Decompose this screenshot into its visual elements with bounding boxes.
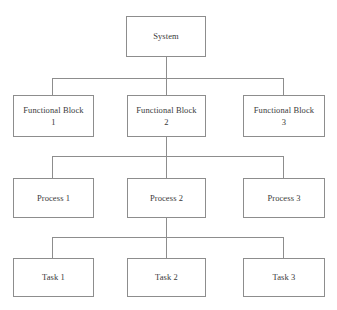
bus-line-level2-to-level3 — [52, 156, 283, 157]
node-task-1[interactable]: Task 1 — [13, 258, 94, 297]
node-functional-block-1[interactable]: Functional Block 1 — [13, 95, 94, 137]
node-process-3-label: Process 3 — [265, 192, 302, 204]
connector-bus2-to-process-3 — [283, 156, 284, 178]
node-functional-block-2[interactable]: Functional Block 2 — [127, 95, 206, 137]
connector-bus2-to-process-2 — [166, 156, 167, 178]
node-system[interactable]: System — [126, 16, 206, 57]
node-functional-block-3[interactable]: Functional Block 3 — [243, 95, 325, 137]
connector-system-to-bus1 — [166, 57, 167, 78]
node-task-2[interactable]: Task 2 — [127, 258, 206, 297]
node-task-1-label: Task 1 — [40, 271, 67, 283]
connector-bus3-to-task-1 — [52, 237, 53, 258]
bus-line-level1-to-level2 — [52, 78, 283, 79]
connector-bus1-to-functional-block-1 — [52, 78, 53, 95]
node-task-3[interactable]: Task 3 — [243, 258, 325, 297]
node-process-3[interactable]: Process 3 — [243, 178, 325, 218]
node-system-label: System — [151, 30, 181, 42]
system-hierarchy-diagram: System Functional Block 1 Functional Blo… — [0, 0, 337, 310]
connector-bus2-to-process-1 — [52, 156, 53, 178]
node-functional-block-3-label: Functional Block 3 — [252, 104, 316, 129]
node-process-2[interactable]: Process 2 — [127, 178, 206, 218]
connector-functional-block-2-to-bus2 — [166, 137, 167, 156]
node-functional-block-2-label: Functional Block 2 — [134, 104, 198, 129]
connector-bus1-to-functional-block-2 — [166, 78, 167, 95]
connector-process-2-to-bus3 — [166, 218, 167, 237]
node-functional-block-1-label: Functional Block 1 — [21, 104, 85, 129]
node-process-1[interactable]: Process 1 — [13, 178, 94, 218]
connector-bus3-to-task-3 — [283, 237, 284, 258]
node-task-2-label: Task 2 — [153, 271, 180, 283]
connector-bus3-to-task-2 — [166, 237, 167, 258]
node-process-2-label: Process 2 — [148, 192, 185, 204]
node-task-3-label: Task 3 — [271, 271, 298, 283]
node-process-1-label: Process 1 — [35, 192, 72, 204]
bus-line-level3-to-level4 — [52, 237, 283, 238]
connector-bus1-to-functional-block-3 — [283, 78, 284, 95]
